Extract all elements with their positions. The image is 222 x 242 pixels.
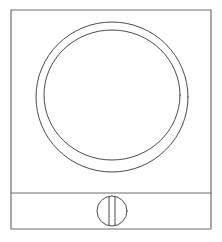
door-ring-inner-circle [44, 30, 180, 160]
appliance-line-drawing [0, 0, 222, 242]
knob-circle[interactable] [97, 196, 127, 226]
drawing-canvas: Technical line drawing of an appliance f… [0, 0, 222, 242]
door-ring-outer-circle [36, 22, 188, 172]
